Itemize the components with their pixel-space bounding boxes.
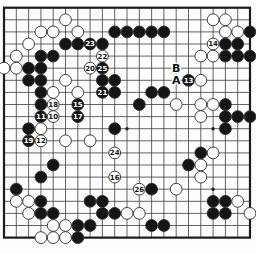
white-stone (47, 26, 59, 38)
black-stone (232, 50, 244, 62)
black-stone (97, 38, 109, 50)
white-stone (23, 208, 35, 220)
black-stone (97, 195, 109, 207)
black-stone (35, 50, 47, 62)
white-stone (35, 26, 47, 38)
black-stone (35, 171, 47, 183)
stone-number-17: 17 (73, 113, 83, 121)
black-stone (97, 74, 109, 86)
black-stone (158, 26, 170, 38)
black-stone (35, 62, 47, 74)
black-stone (72, 232, 84, 244)
go-diagram-page: 2314222025132118151110171912241626BA (0, 0, 256, 254)
black-stone (109, 26, 121, 38)
black-stone (232, 38, 244, 50)
star-point (211, 127, 214, 130)
white-stone (195, 171, 207, 183)
white-stone (35, 232, 47, 244)
black-stone (146, 220, 158, 232)
stone-number-18: 18 (48, 101, 58, 109)
black-stone (146, 183, 158, 195)
black-stone (84, 220, 96, 232)
go-board: 2314222025132118151110171912241626BA (0, 0, 256, 254)
white-stone (232, 195, 244, 207)
white-stone (84, 135, 96, 147)
black-stone (109, 74, 121, 86)
white-stone (35, 123, 47, 135)
black-stone (121, 26, 133, 38)
black-stone (35, 74, 47, 86)
black-stone (244, 26, 256, 38)
white-stone (170, 99, 182, 111)
black-stone (207, 208, 219, 220)
white-stone (47, 232, 59, 244)
black-stone (109, 87, 121, 99)
star-point (125, 127, 128, 130)
white-stone (170, 183, 182, 195)
white-stone (60, 232, 72, 244)
white-stone (60, 135, 72, 147)
black-stone (47, 208, 59, 220)
black-stone (35, 208, 47, 220)
black-stone (220, 99, 232, 111)
black-stone (47, 159, 59, 171)
black-stone (220, 50, 232, 62)
black-stone (84, 195, 96, 207)
black-stone (109, 123, 121, 135)
black-stone (35, 87, 47, 99)
black-stone (23, 123, 35, 135)
black-stone (133, 99, 145, 111)
white-stone (60, 220, 72, 232)
star-point (211, 188, 214, 191)
white-stone (72, 26, 84, 38)
white-stone (207, 147, 219, 159)
stone-number-23: 23 (85, 40, 95, 48)
black-stone (146, 87, 158, 99)
stone-number-12: 12 (36, 137, 46, 145)
white-stone (47, 220, 59, 232)
point-label-B: B (172, 62, 180, 75)
white-stone (10, 50, 22, 62)
stone-number-22: 22 (98, 53, 108, 61)
white-stone (72, 87, 84, 99)
white-stone (0, 62, 10, 74)
white-stone (207, 50, 219, 62)
black-stone (158, 87, 170, 99)
black-stone (72, 220, 84, 232)
white-stone (195, 99, 207, 111)
stone-number-16: 16 (110, 174, 120, 182)
stone-number-20: 20 (85, 65, 95, 73)
white-stone (195, 74, 207, 86)
white-stone (60, 14, 72, 26)
white-stone (121, 208, 133, 220)
stone-number-26: 26 (134, 186, 144, 194)
black-stone (72, 38, 84, 50)
stone-number-24: 24 (110, 149, 120, 157)
stone-number-21: 21 (98, 89, 108, 97)
stone-number-10: 10 (48, 113, 58, 121)
black-stone (207, 195, 219, 207)
black-stone (35, 195, 47, 207)
stone-number-14: 14 (208, 40, 218, 48)
black-stone (220, 38, 232, 50)
white-stone (23, 195, 35, 207)
black-stone (183, 159, 195, 171)
white-stone (207, 99, 219, 111)
white-stone (47, 87, 59, 99)
black-stone (97, 208, 109, 220)
black-stone (10, 183, 22, 195)
stone-number-15: 15 (73, 101, 83, 109)
black-stone (244, 111, 256, 123)
stone-number-19: 19 (24, 137, 34, 145)
white-stone (10, 62, 22, 74)
point-label-A: A (172, 74, 181, 87)
black-stone (220, 111, 232, 123)
black-stone (47, 50, 59, 62)
white-stone (195, 50, 207, 62)
white-stone (220, 14, 232, 26)
white-stone (60, 74, 72, 86)
black-stone (220, 208, 232, 220)
white-stone (207, 14, 219, 26)
white-stone (23, 38, 35, 50)
white-stone (133, 208, 145, 220)
